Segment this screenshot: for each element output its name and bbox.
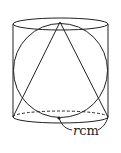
cone-right-slant [60,22,108,117]
cone-left-slant [13,22,60,117]
inscribed-sphere [14,24,108,118]
cone [13,22,108,117]
geometry-diagram: rcm [0,0,121,153]
radius-label: rcm [73,123,99,138]
radius-annotation-curve [59,118,72,130]
cylinder [13,18,108,123]
radius-unit: cm [79,123,99,138]
cylinder-bottom-back-arc [13,111,108,117]
